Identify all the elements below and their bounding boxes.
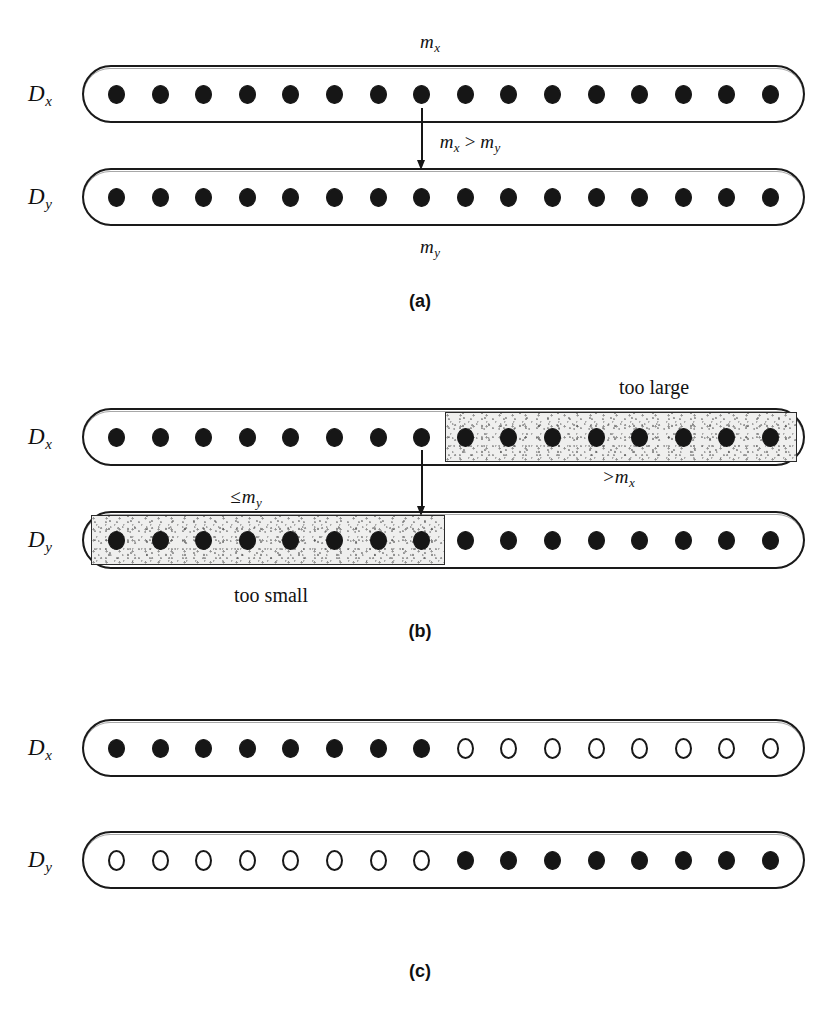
panel-c: DxDy(c) bbox=[0, 0, 840, 1014]
row-label-base: D bbox=[28, 735, 45, 760]
figure-root: DxDymxmymx>my(a)DxDytoo largetoo small>m… bbox=[0, 0, 840, 1014]
row-label-dy: Dy bbox=[28, 848, 52, 875]
element-dot-hollow bbox=[326, 850, 343, 871]
panel-caption-c: (c) bbox=[409, 962, 431, 980]
row-label-base: D bbox=[28, 847, 45, 872]
element-dot-filled bbox=[675, 851, 692, 870]
element-dot-filled bbox=[762, 851, 779, 870]
element-dot-hollow bbox=[370, 850, 387, 871]
row-label-subscript: x bbox=[45, 747, 52, 763]
element-dot-hollow bbox=[195, 850, 212, 871]
element-dot-hollow bbox=[675, 738, 692, 759]
dot-row-dx bbox=[108, 739, 779, 757]
dot-row-dy bbox=[108, 851, 779, 869]
element-dot-filled bbox=[588, 851, 605, 870]
element-dot-hollow bbox=[544, 738, 561, 759]
element-dot-filled bbox=[631, 851, 648, 870]
element-dot-hollow bbox=[457, 738, 474, 759]
element-dot-filled bbox=[544, 851, 561, 870]
element-dot-hollow bbox=[239, 850, 256, 871]
element-dot-filled bbox=[500, 851, 517, 870]
element-dot-filled bbox=[239, 739, 256, 758]
element-dot-hollow bbox=[631, 738, 648, 759]
element-dot-hollow bbox=[762, 738, 779, 759]
element-dot-hollow bbox=[500, 738, 517, 759]
element-dot-filled bbox=[282, 739, 299, 758]
element-dot-hollow bbox=[588, 738, 605, 759]
element-dot-filled bbox=[326, 739, 343, 758]
element-dot-filled bbox=[718, 851, 735, 870]
row-label-subscript: y bbox=[45, 859, 52, 875]
row-label-dx: Dx bbox=[28, 736, 52, 763]
element-dot-hollow bbox=[413, 850, 430, 871]
element-dot-hollow bbox=[152, 850, 169, 871]
element-dot-filled bbox=[195, 739, 212, 758]
element-dot-filled bbox=[457, 851, 474, 870]
element-dot-hollow bbox=[718, 738, 735, 759]
element-dot-filled bbox=[370, 739, 387, 758]
element-dot-filled bbox=[413, 739, 430, 758]
element-dot-hollow bbox=[108, 850, 125, 871]
element-dot-hollow bbox=[282, 850, 299, 871]
element-dot-filled bbox=[108, 739, 125, 758]
element-dot-filled bbox=[152, 739, 169, 758]
